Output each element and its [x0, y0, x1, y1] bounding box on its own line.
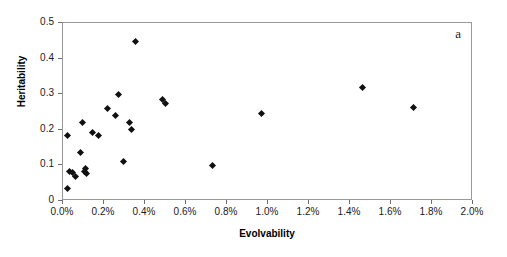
data-point [64, 185, 71, 192]
data-point [112, 112, 119, 119]
data-point [83, 170, 90, 177]
x-axis-tick-label: 1.0% [244, 206, 290, 218]
x-axis-tick [185, 200, 186, 204]
x-axis-tick-label: 1.2% [285, 206, 331, 218]
data-point [95, 132, 102, 139]
data-point [128, 126, 135, 133]
x-axis-tick [267, 200, 268, 204]
x-axis-tick-label: 2.0% [449, 206, 495, 218]
data-point [126, 119, 133, 126]
data-point [104, 105, 111, 112]
data-point [258, 110, 265, 117]
plot-area: a [62, 22, 472, 200]
x-axis-tick [308, 200, 309, 204]
y-axis-tick [58, 93, 62, 94]
x-axis-title: Evolvability [62, 228, 472, 239]
y-axis-tick-label: 0.1 [10, 159, 54, 169]
x-axis-tick-label: 0.8% [203, 206, 249, 218]
data-point [120, 158, 127, 165]
x-axis-tick [472, 200, 473, 204]
data-point [162, 100, 169, 107]
x-axis-tick [144, 200, 145, 204]
x-axis-tick [390, 200, 391, 204]
x-axis-tick-label: 0.2% [80, 206, 126, 218]
x-axis-tick [226, 200, 227, 204]
data-point [77, 149, 84, 156]
data-point [209, 162, 216, 169]
data-point [79, 119, 86, 126]
y-axis-tick [58, 200, 62, 201]
data-point [359, 84, 366, 91]
x-axis-tick [103, 200, 104, 204]
y-axis-tick [58, 129, 62, 130]
y-axis-tick [58, 58, 62, 59]
x-axis-tick-label: 0.6% [162, 206, 208, 218]
data-point [64, 132, 71, 139]
data-point [115, 91, 122, 98]
y-axis-title: Heritability [16, 27, 27, 137]
data-point [132, 38, 139, 45]
x-axis-tick [431, 200, 432, 204]
x-axis-tick-label: 1.4% [326, 206, 372, 218]
x-axis-tick-label: 0.4% [121, 206, 167, 218]
x-axis-tick-label: 1.8% [408, 206, 454, 218]
x-axis-tick [349, 200, 350, 204]
scatter-plot-figure: a 0.0%0.2%0.4%0.6%0.8%1.0%1.2%1.4%1.6%1.… [0, 0, 507, 257]
data-point [410, 104, 417, 111]
x-axis-tick-label: 0.0% [39, 206, 85, 218]
y-axis-tick [58, 164, 62, 165]
y-axis-tick-label: 0.5 [10, 17, 54, 27]
y-axis-tick-label: 0 [10, 195, 54, 205]
y-axis-tick [58, 22, 62, 23]
x-axis-tick [62, 200, 63, 204]
panel-label: a [455, 27, 461, 40]
x-axis-tick-label: 1.6% [367, 206, 413, 218]
